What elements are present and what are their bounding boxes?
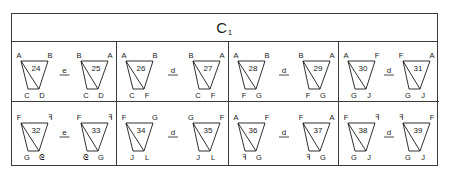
right-figure-vertex-top-left: ꟻ — [399, 113, 404, 122]
left-figure-vertex-bottom-right: J — [367, 91, 371, 100]
left-figure-vertex-bottom-right: G — [256, 91, 262, 100]
left-figure-figure-number: 32 — [32, 126, 41, 135]
right-figure-vertex-bottom-left: C — [195, 91, 201, 100]
right-figure-figure-number: 35 — [204, 126, 213, 135]
figure-pair-24-25: ABCD24BACD25e — [12, 42, 117, 102]
right-figure-vertex-top-right: F — [220, 113, 225, 122]
right-figure-vertex-bottom-left: F — [306, 91, 311, 100]
relation-label: d — [387, 128, 391, 137]
left-figure-figure-number: 26 — [137, 64, 146, 73]
right-figure-vertex-bottom-right: F — [211, 91, 216, 100]
right-figure-vertex-bottom-right: D — [98, 91, 104, 100]
left-figure-figure-number: 28 — [249, 64, 258, 73]
figure-pair-32-33: FꟻGᘓ32FꟻᘓG33e — [12, 102, 117, 166]
right-figure-vertex-top-right: A — [329, 113, 334, 122]
left-figure-vertex-top-right: F — [265, 113, 270, 122]
left-figure-vertex-top-right: ꟻ — [48, 113, 53, 122]
left-figure-vertex-bottom-right: J — [367, 153, 371, 162]
title-letter: C — [216, 19, 227, 36]
right-figure-vertex-top-left: B — [188, 51, 193, 60]
right-figure-vertex-top-right: A — [329, 51, 334, 60]
left-figure-vertex-bottom-left: F — [242, 91, 247, 100]
left-figure-figure-number: 36 — [249, 126, 258, 135]
left-figure-vertex-top-left: A — [16, 51, 21, 60]
relation-label: d — [171, 66, 175, 75]
left-figure-vertex-bottom-left: ꟻ — [242, 153, 247, 162]
right-figure-vertex-bottom-right: G — [320, 153, 326, 162]
right-figure-vertex-top-right: F — [430, 113, 435, 122]
title-subscript: 1 — [228, 28, 233, 37]
left-figure-vertex-top-right: G — [152, 113, 158, 122]
left-figure-vertex-bottom-left: C — [129, 91, 135, 100]
left-figure-vertex-bottom-right: D — [39, 91, 45, 100]
right-figure-vertex-top-right: ꟻ — [108, 113, 113, 122]
left-figure-vertex-bottom-left: C — [24, 91, 30, 100]
right-figure-figure-number: 31 — [414, 64, 423, 73]
relation-label: d — [171, 128, 175, 137]
right-figure-vertex-top-left: B — [76, 51, 81, 60]
left-figure-vertex-bottom-right: L — [145, 153, 149, 162]
right-figure-vertex-bottom-left: ᘓ — [83, 153, 89, 162]
right-figure-vertex-top-right: A — [219, 51, 224, 60]
figure-pair-drawing: ABCD24BACD25e — [12, 42, 116, 101]
right-figure-vertex-bottom-right: G — [98, 153, 104, 162]
right-figure-figure-number: 29 — [314, 64, 323, 73]
right-figure-vertex-bottom-right: J — [421, 91, 425, 100]
right-figure-vertex-top-right: A — [429, 51, 434, 60]
left-figure-vertex-top-left: A — [343, 51, 348, 60]
right-figure-vertex-bottom-left: G — [405, 91, 411, 100]
right-figure-vertex-top-left: F — [399, 51, 404, 60]
right-figure-vertex-top-left: G — [188, 113, 194, 122]
left-figure-vertex-top-left: F — [122, 113, 127, 122]
left-figure-vertex-bottom-right: F — [145, 91, 150, 100]
right-figure-vertex-bottom-left: C — [83, 91, 89, 100]
left-figure-vertex-top-left: A — [233, 113, 238, 122]
figure-pair-drawing: ABFG28BAFG29d — [229, 42, 338, 101]
right-figure-vertex-top-left: B — [298, 51, 303, 60]
left-figure-vertex-top-left: F — [17, 113, 22, 122]
figure-pair-36-37: AFꟻG36FAꟻG37d — [229, 102, 339, 166]
relation-label: e — [62, 128, 67, 137]
figure-pair-28-29: ABFG28BAFG29d — [229, 42, 339, 102]
left-figure-vertex-top-right: B — [47, 51, 52, 60]
left-figure-vertex-top-left: F — [344, 113, 349, 122]
left-figure-vertex-bottom-left: J — [130, 153, 134, 162]
left-figure-vertex-top-right: ꟻ — [375, 113, 380, 122]
left-figure-vertex-top-left: A — [121, 51, 126, 60]
right-figure-figure-number: 27 — [204, 64, 213, 73]
right-figure-figure-number: 37 — [314, 126, 323, 135]
right-figure-vertex-bottom-right: J — [421, 153, 425, 162]
left-figure-vertex-top-left: A — [233, 51, 238, 60]
relation-label: d — [282, 128, 286, 137]
table-title: C1 — [216, 19, 232, 37]
left-figure-figure-number: 34 — [137, 126, 146, 135]
right-figure-vertex-bottom-left: G — [405, 153, 411, 162]
left-figure-vertex-bottom-left: G — [351, 153, 357, 162]
right-figure-figure-number: 33 — [92, 126, 101, 135]
figure-pair-drawing: FꟻGᘓ32FꟻᘓG33e — [12, 102, 116, 166]
left-figure-vertex-bottom-left: G — [24, 153, 30, 162]
figure-pair-drawing: AFGJ30FAGJ31d — [339, 42, 439, 101]
relation-label: d — [282, 66, 286, 75]
figure-pair-30-31: AFGJ30FAGJ31d — [339, 42, 439, 102]
left-figure-figure-number: 30 — [359, 64, 368, 73]
left-figure-vertex-bottom-right: ᘓ — [39, 153, 45, 162]
right-figure-vertex-bottom-right: L — [211, 153, 215, 162]
left-figure-vertex-bottom-right: G — [256, 153, 262, 162]
relation-label: e — [62, 66, 67, 75]
figure-pair-26-27: ABCF26BACF27d — [117, 42, 229, 102]
figure-pair-38-39: FꟻGJ38ꟻFGJ39d — [339, 102, 439, 166]
figure-pair-drawing: FꟻGJ38ꟻFGJ39d — [339, 102, 439, 166]
right-figure-vertex-top-left: F — [77, 113, 82, 122]
left-figure-figure-number: 38 — [359, 126, 368, 135]
right-figure-vertex-bottom-left: J — [196, 153, 200, 162]
right-figure-vertex-top-right: A — [107, 51, 112, 60]
right-figure-vertex-bottom-left: ꟻ — [306, 153, 311, 162]
right-figure-figure-number: 39 — [414, 126, 423, 135]
left-figure-vertex-top-right: F — [375, 51, 380, 60]
figure-pair-drawing: AFꟻG36FAꟻG37d — [229, 102, 338, 166]
diagram-table: C1 ABCD24BACD25eABCF26BACF27dABFG28BAFG2… — [11, 13, 438, 166]
figure-pair-drawing: FGJL34GFJL35d — [117, 102, 228, 166]
figure-pair-34-35: FGJL34GFJL35d — [117, 102, 229, 166]
figure-pair-drawing: ABCF26BACF27d — [117, 42, 228, 101]
